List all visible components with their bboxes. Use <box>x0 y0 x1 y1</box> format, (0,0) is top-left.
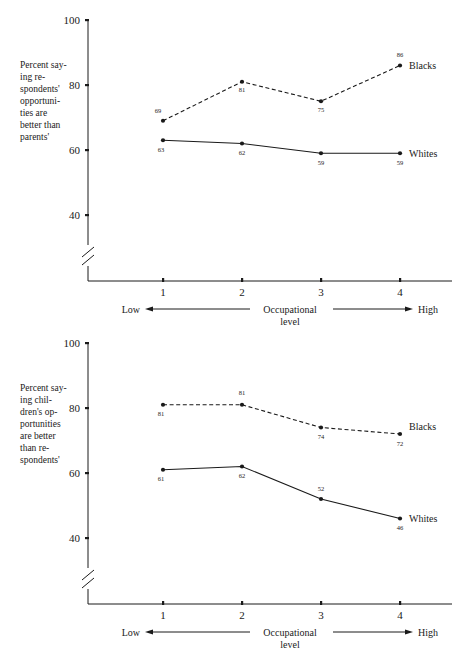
y-tick-label: 60 <box>69 467 81 479</box>
y-axis-label-respondents: Percent say- ing re- spondents' opportun… <box>20 60 67 142</box>
y-tick-label: 80 <box>69 402 81 414</box>
y-axis-label-line: ties are <box>20 108 47 118</box>
x-axis-title-line2: level <box>280 639 300 650</box>
data-point-label: 59 <box>397 159 404 166</box>
data-point-label: 46 <box>397 524 404 531</box>
series-legend-label-blacks: Blacks <box>409 421 436 432</box>
data-point-label: 75 <box>318 106 325 113</box>
y-tick-label: 40 <box>69 209 81 221</box>
x-tick-label: 3 <box>318 609 324 621</box>
series-legend-label-whites: Whites <box>409 148 437 159</box>
y-axis-label-line: than re- <box>20 443 49 453</box>
y-tick-label: 40 <box>69 532 81 544</box>
x-tick-label: 2 <box>239 286 245 298</box>
data-point-label: 81 <box>158 410 165 417</box>
y-tick-mark <box>85 149 89 151</box>
x-tick-label: 4 <box>397 286 403 298</box>
series-whites-line <box>163 140 400 153</box>
left-arrow-head-icon <box>145 629 153 634</box>
line-chart-respondents: Percent say- ing re- spondents' opportun… <box>0 0 455 331</box>
right-arrow-head-icon <box>405 629 413 634</box>
data-point-label: 81 <box>239 389 246 396</box>
data-point-label: 69 <box>155 107 162 114</box>
axis-break-mark <box>82 570 94 580</box>
data-point-label: 62 <box>239 149 246 156</box>
data-point <box>319 151 323 155</box>
x-tick-label: 4 <box>397 609 403 621</box>
data-point <box>161 468 165 472</box>
series-whites-line <box>163 467 400 519</box>
y-tick-label: 60 <box>69 144 81 156</box>
x-axis-high-label: High <box>418 304 438 315</box>
y-axis-label-line: spondents' <box>20 84 60 94</box>
series-blacks-line <box>163 66 400 121</box>
data-point-label: 61 <box>158 475 165 482</box>
x-axis-low-label: Low <box>122 627 141 638</box>
y-tick-mark <box>85 537 89 539</box>
chart-panel-children: Percent say- ing chil- dren's op- portun… <box>0 331 455 662</box>
right-arrow-head-icon <box>405 306 413 311</box>
series-blacks: 69 81 75 86 Blacks <box>155 51 437 123</box>
chart-panel-respondents: Percent say- ing re- spondents' opportun… <box>0 0 455 331</box>
y-axis-label-line: parents' <box>20 132 49 142</box>
series-blacks: 81 81 74 72 Blacks <box>158 389 437 447</box>
axis-break-mark <box>82 578 94 588</box>
axis-break-mark <box>82 247 94 257</box>
x-axis-high-label: High <box>418 627 438 638</box>
data-point <box>240 403 244 407</box>
y-tick-mark <box>85 214 89 216</box>
x-tick-mark <box>162 278 164 282</box>
data-point-label: 81 <box>239 86 246 93</box>
data-point <box>161 119 165 123</box>
data-point-label: 86 <box>397 51 404 58</box>
x-tick-mark <box>241 601 243 605</box>
y-tick-mark <box>85 407 89 409</box>
x-axis-title-line2: level <box>280 316 300 327</box>
data-point-label: 72 <box>397 440 404 447</box>
data-point-label: 62 <box>239 472 246 479</box>
x-tick-mark <box>399 601 401 605</box>
x-tick-mark <box>399 278 401 282</box>
series-whites: 63 62 59 59 Whites <box>158 138 438 166</box>
x-axis-title-line1: Occupational <box>263 304 317 315</box>
y-axis-ticks: 100 80 60 40 <box>64 14 90 221</box>
series-blacks-line <box>163 405 400 434</box>
data-point <box>319 497 323 501</box>
y-tick-mark <box>85 19 89 21</box>
y-axis-label-line: opportuni- <box>20 96 60 106</box>
line-chart-children: Percent say- ing chil- dren's op- portun… <box>0 331 455 662</box>
data-point <box>319 425 323 429</box>
data-point <box>240 80 244 84</box>
data-point <box>398 516 402 520</box>
y-tick-mark <box>85 84 89 86</box>
x-tick-label: 1 <box>160 609 166 621</box>
y-axis-label-line: are better <box>20 431 56 441</box>
y-tick-label: 80 <box>69 79 81 91</box>
y-axis-label-children: Percent say- ing chil- dren's op- portun… <box>20 383 67 465</box>
y-axis-label-line: Percent say- <box>20 60 67 70</box>
y-axis-label-line: spondents' <box>20 455 60 465</box>
data-point <box>161 403 165 407</box>
data-point <box>398 151 402 155</box>
data-point-label: 59 <box>318 159 325 166</box>
axis-break-mark <box>82 255 94 265</box>
data-point <box>240 464 244 468</box>
left-arrow-head-icon <box>145 306 153 311</box>
y-axis-ticks: 100 80 60 40 <box>64 337 90 544</box>
data-point-label: 74 <box>318 433 325 440</box>
y-tick-mark <box>85 342 89 344</box>
y-axis-label-line: better than <box>20 120 61 130</box>
series-legend-label-blacks: Blacks <box>409 60 436 71</box>
y-axis-label-line: dren's op- <box>20 407 57 417</box>
data-point-label: 52 <box>318 485 325 492</box>
y-axis-label-line: ing re- <box>20 72 45 82</box>
data-point <box>161 138 165 142</box>
x-axis-direction-annotation: Low Occupational level High <box>122 627 438 650</box>
data-point <box>240 141 244 145</box>
x-tick-label: 2 <box>239 609 245 621</box>
x-axis-direction-annotation: Low Occupational level High <box>122 304 438 327</box>
series-legend-label-whites: Whites <box>409 513 437 524</box>
y-tick-label: 100 <box>64 14 81 26</box>
y-axis-label-line: Percent say- <box>20 383 67 393</box>
data-point <box>398 63 402 67</box>
